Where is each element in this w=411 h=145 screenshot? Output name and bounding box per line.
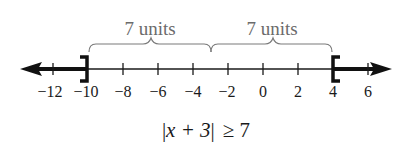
tick-label: 0 — [259, 83, 267, 100]
tick-label: 2 — [294, 83, 302, 100]
tick-label: 4 — [329, 83, 337, 100]
tick-label: −10 — [73, 83, 98, 100]
inequality-label: |x + 3|≥ 7 — [162, 118, 250, 142]
tick-label: −6 — [149, 83, 166, 100]
tick-labels: −12 −10 −8 −6 −4 −2 0 2 4 6 — [37, 83, 372, 100]
tick-label: 6 — [364, 83, 372, 100]
abs-bar-close: | — [211, 118, 215, 142]
brace-right — [211, 38, 332, 52]
number-line-diagram: 7 units 7 units −12 −10 −8 −6 −4 −2 0 2 … — [0, 0, 411, 145]
brace-label-right: 7 units — [246, 18, 297, 39]
relation: ≥ 7 — [223, 118, 250, 142]
tick-label: −12 — [37, 83, 62, 100]
brace-left — [89, 38, 211, 52]
tick-label: −2 — [218, 83, 235, 100]
tick-label: −4 — [184, 83, 201, 100]
tick-label: −8 — [114, 83, 131, 100]
brace-label-left: 7 units — [124, 18, 175, 39]
abs-expression: x + 3 — [165, 118, 211, 142]
